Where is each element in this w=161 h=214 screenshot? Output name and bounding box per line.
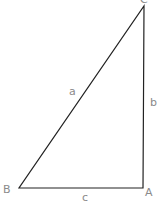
vertex-a-label: A: [145, 186, 153, 199]
vertex-c-label: C: [140, 0, 148, 6]
side-b-label: b: [150, 96, 157, 109]
triangle: [19, 6, 144, 188]
side-a-label: a: [69, 85, 76, 98]
vertex-b-label: B: [3, 183, 11, 196]
side-c-label: c: [82, 191, 88, 204]
triangle-diagram: C B A a b c: [0, 0, 161, 214]
